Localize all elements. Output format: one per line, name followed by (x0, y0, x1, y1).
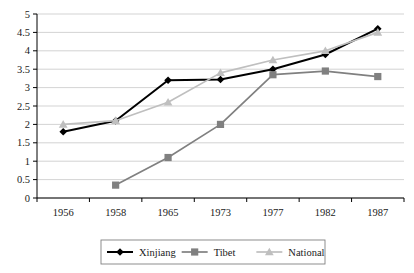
x-tick-label: 1956 (53, 207, 74, 218)
data-point-square (374, 73, 381, 80)
y-tick-label: 0.5 (17, 174, 30, 185)
data-point-diamond (217, 76, 225, 84)
y-axis-tick-labels: 00.511.522.533.544.55 (17, 9, 31, 204)
y-tick-label: 3 (25, 82, 30, 93)
legend-label: National (288, 247, 324, 258)
x-tick-label: 1965 (158, 207, 179, 218)
data-point-square (269, 71, 276, 78)
x-axis-ticks (37, 198, 404, 202)
data-point-square (191, 248, 198, 255)
y-tick-label: 5 (25, 9, 30, 20)
series-tibet (112, 67, 381, 188)
x-tick-label: 1977 (262, 207, 283, 218)
data-point-square (112, 182, 119, 189)
data-point-triangle (164, 98, 173, 106)
y-tick-label: 4 (25, 45, 31, 56)
x-tick-label: 1958 (105, 207, 126, 218)
y-tick-label: 0 (25, 193, 30, 204)
x-axis-tick-labels: 1956195819651973197719821987 (53, 207, 389, 218)
series-line (116, 71, 378, 185)
y-tick-label: 2 (25, 119, 30, 130)
x-tick-label: 1982 (315, 207, 336, 218)
legend-label: Tibet (214, 247, 236, 258)
gridlines (37, 14, 404, 198)
line-chart: 00.511.522.533.544.55 195619581965197319… (0, 0, 414, 273)
y-tick-label: 3.5 (17, 64, 30, 75)
x-tick-label: 1987 (367, 207, 388, 218)
chart-canvas: 00.511.522.533.544.55 195619581965197319… (0, 0, 414, 273)
data-point-square (164, 154, 171, 161)
data-point-square (322, 67, 329, 74)
y-tick-label: 2.5 (17, 101, 30, 112)
chart-legend: XinjiangTibetNational (101, 240, 325, 264)
legend-label: Xinjiang (139, 247, 176, 258)
y-tick-label: 1 (25, 156, 30, 167)
y-axis-ticks (33, 14, 37, 198)
data-point-diamond (59, 128, 67, 136)
y-tick-label: 4.5 (17, 27, 30, 38)
x-tick-label: 1973 (210, 207, 231, 218)
series-xinjiang (59, 25, 381, 136)
y-tick-label: 1.5 (17, 137, 30, 148)
series-layer (59, 25, 382, 189)
data-point-square (217, 121, 224, 128)
